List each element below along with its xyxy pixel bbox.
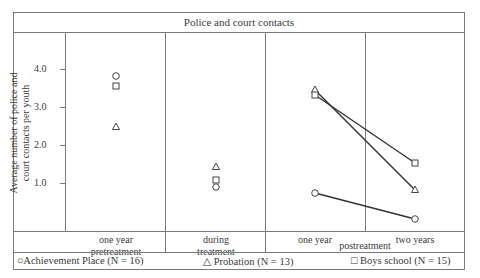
boys-marker-post1 — [312, 92, 318, 98]
legend-probation-text: Probation (N = 13) — [214, 256, 294, 267]
legend-boys-text: Boys school (N = 15) — [360, 255, 451, 266]
x-label-during-line1: during — [186, 234, 246, 246]
legend: ○Achievement Place (N = 16) △ Probation … — [13, 252, 465, 270]
triangle-icon: △ — [203, 256, 211, 267]
legend-achievement: ○Achievement Place (N = 16) — [17, 255, 144, 266]
achievement-marker-post2 — [412, 216, 419, 223]
boys-marker-post2 — [412, 160, 418, 166]
achievement-marker-pre — [113, 73, 120, 80]
x-label-pre-line1: one year — [86, 234, 146, 246]
achievement-marker-post1 — [312, 190, 319, 197]
boys-marker-during — [213, 177, 219, 183]
achievement-marker-during — [213, 184, 219, 190]
square-icon: □ — [351, 255, 357, 266]
probation-marker-during — [213, 163, 220, 170]
x-label-postreatment-group: postreatment — [335, 240, 395, 252]
legend-achievement-text: Achievement Place (N = 16) — [23, 255, 143, 266]
probation-marker-pre — [113, 123, 120, 130]
legend-probation: △ Probation (N = 13) — [203, 255, 293, 267]
boys-marker-pre — [113, 83, 119, 89]
legend-boys-school: □ Boys school (N = 15) — [351, 255, 450, 266]
